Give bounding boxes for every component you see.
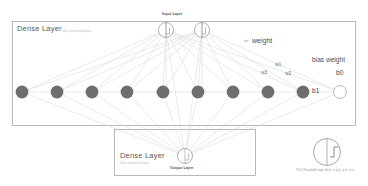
weight-n-label: wn (244, 40, 248, 43)
edges-hidden-to-output (22, 92, 340, 156)
bias-weight-label: bias weight (312, 57, 345, 64)
b1-label: b1 (312, 88, 319, 95)
hidden-node-5 (157, 86, 170, 99)
dense-layer-title-output: Dense Layer (120, 152, 165, 160)
hidden-node-8 (262, 86, 275, 99)
dense-layer-box-hidden (13, 22, 356, 126)
hidden-node-7 (227, 86, 240, 99)
hidden-node-6 (192, 86, 205, 99)
w1-label: w1 (275, 62, 281, 67)
hidden-layer-nodes (16, 86, 310, 99)
b0-label: b0 (336, 70, 343, 77)
hidden-node-4 (121, 86, 134, 99)
dense-layer-subtitle-hidden: fully connected layer (62, 30, 91, 33)
dense-layer-subtitle-output: fully connected layer (120, 162, 149, 165)
dense-layer-title-hidden: Dense Layer (17, 25, 62, 33)
output-layer-caption: Output Layer (170, 167, 194, 171)
output-node (178, 149, 193, 164)
tlu-legend-icon (314, 139, 341, 166)
hidden-node-1 (16, 86, 29, 99)
hidden-node-3 (86, 86, 99, 99)
hidden-node-2 (51, 86, 64, 99)
bias-node-b0 (334, 86, 347, 99)
input-layer-caption: Input Layer (162, 13, 182, 17)
tlu-legend-caption: TLU (Threshold Logic Unit) 임계값 논리 유닛 (296, 169, 355, 172)
input-node-2 (195, 23, 210, 38)
w2-label: w2 (285, 71, 291, 76)
diagram-canvas: Input Layer Dense Layer fully connected … (0, 0, 368, 186)
input-node-1 (159, 23, 174, 38)
w3-label: w3 (261, 70, 267, 75)
hidden-node-9 (297, 86, 310, 99)
weight-label: weight (252, 37, 272, 44)
